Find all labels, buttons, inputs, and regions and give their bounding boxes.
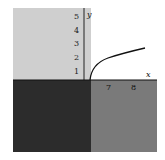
x-axis-label: x bbox=[146, 71, 151, 79]
y-tick-label: 1 bbox=[74, 68, 79, 76]
y-tick-label: 5 bbox=[74, 13, 79, 21]
y-tick-label: 3 bbox=[74, 40, 79, 48]
curve-line bbox=[90, 48, 145, 80]
y-tick-label: 2 bbox=[74, 54, 79, 62]
plot-svg bbox=[0, 0, 165, 160]
x-tick-label: 8 bbox=[131, 84, 136, 92]
y-axis-label: y bbox=[87, 11, 92, 19]
x-tick-label: 7 bbox=[106, 84, 111, 92]
y-tick-label: 4 bbox=[74, 27, 79, 35]
